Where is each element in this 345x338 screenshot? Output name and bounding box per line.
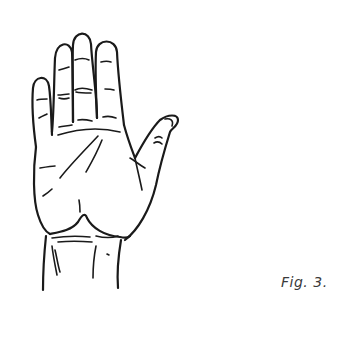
wrist-right-edge [118,240,121,288]
ring-finger-outline [52,44,73,132]
thumb-nail [165,119,173,126]
wrist-left-edge [43,236,46,290]
middle-finger-outline [73,34,97,122]
wrist-shading [52,246,109,278]
thumb-outline [125,116,178,241]
little-finger-outline [33,78,52,147]
index-finger-outline [96,42,124,126]
finger-joint-creases [37,59,162,145]
palm-left-edge [34,147,50,234]
figure: Fig. 3. [0,0,345,338]
figure-caption: Fig. 3. [281,274,328,290]
palm-heel [50,215,130,238]
palm-right-edge [124,125,135,158]
